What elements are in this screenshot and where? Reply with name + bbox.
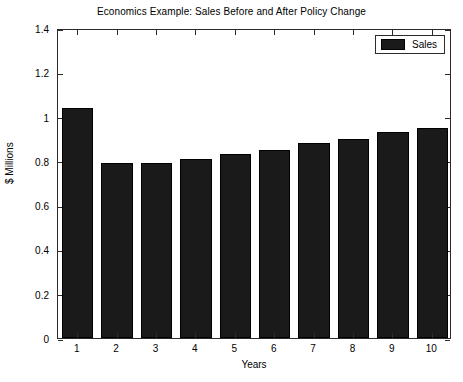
y-tick-mark bbox=[445, 118, 450, 119]
x-tick-mark bbox=[77, 30, 78, 35]
bar-9[interactable] bbox=[377, 132, 409, 338]
y-tick-label: 0 bbox=[43, 334, 49, 345]
x-tick-label: 5 bbox=[232, 343, 238, 354]
x-tick-label: 8 bbox=[350, 343, 356, 354]
x-tick-mark bbox=[117, 30, 118, 35]
bar-8[interactable] bbox=[338, 139, 370, 338]
x-tick-mark bbox=[156, 333, 157, 338]
bar-1[interactable] bbox=[62, 108, 94, 338]
y-tick-label: 0.4 bbox=[35, 245, 49, 256]
x-tick-mark bbox=[432, 333, 433, 338]
x-tick-mark bbox=[77, 333, 78, 338]
x-tick-label: 10 bbox=[426, 343, 437, 354]
x-tick-label: 2 bbox=[113, 343, 119, 354]
x-tick-mark bbox=[274, 333, 275, 338]
chart-figure: Economics Example: Sales Before and Afte… bbox=[0, 0, 463, 382]
x-tick-mark bbox=[314, 30, 315, 35]
chart-legend[interactable]: Sales bbox=[375, 35, 445, 54]
plot-area: Sales bbox=[57, 29, 451, 339]
legend-label-sales: Sales bbox=[412, 39, 437, 50]
chart-title: Economics Example: Sales Before and Afte… bbox=[0, 6, 463, 17]
y-tick-label: 1 bbox=[43, 112, 49, 123]
x-tick-label: 6 bbox=[271, 343, 277, 354]
y-tick-label: 0.2 bbox=[35, 289, 49, 300]
y-tick-mark bbox=[445, 30, 450, 31]
x-tick-mark bbox=[195, 333, 196, 338]
x-tick-mark bbox=[353, 30, 354, 35]
y-axis-tick-labels: 00.20.40.60.811.21.4 bbox=[0, 29, 52, 339]
bar-4[interactable] bbox=[180, 159, 212, 338]
bar-5[interactable] bbox=[220, 154, 252, 338]
y-tick-mark bbox=[58, 30, 63, 31]
y-tick-label: 0.6 bbox=[35, 201, 49, 212]
y-axis-title: $ Millions bbox=[4, 142, 15, 184]
x-tick-mark bbox=[235, 30, 236, 35]
y-tick-label: 0.8 bbox=[35, 156, 49, 167]
y-tick-label: 1.2 bbox=[35, 68, 49, 79]
x-tick-label: 3 bbox=[153, 343, 159, 354]
bar-10[interactable] bbox=[417, 128, 449, 338]
y-tick-label: 1.4 bbox=[35, 24, 49, 35]
x-tick-mark bbox=[353, 333, 354, 338]
y-tick-mark bbox=[58, 74, 63, 75]
x-tick-mark bbox=[117, 333, 118, 338]
bar-6[interactable] bbox=[259, 150, 291, 338]
x-tick-mark bbox=[274, 30, 275, 35]
x-axis-tick-labels: 12345678910 bbox=[57, 341, 451, 359]
x-tick-mark bbox=[156, 30, 157, 35]
x-tick-mark bbox=[314, 333, 315, 338]
plot-inner bbox=[58, 30, 450, 338]
x-tick-mark bbox=[235, 333, 236, 338]
x-tick-mark bbox=[195, 30, 196, 35]
legend-swatch-sales bbox=[381, 39, 405, 50]
y-tick-mark bbox=[445, 74, 450, 75]
x-tick-label: 7 bbox=[310, 343, 316, 354]
x-tick-mark bbox=[392, 333, 393, 338]
bar-3[interactable] bbox=[141, 163, 173, 338]
x-tick-label: 9 bbox=[389, 343, 395, 354]
x-tick-label: 4 bbox=[192, 343, 198, 354]
x-axis-title: Years bbox=[57, 359, 451, 370]
x-tick-label: 1 bbox=[74, 343, 80, 354]
bar-2[interactable] bbox=[101, 163, 133, 338]
bar-7[interactable] bbox=[298, 143, 330, 338]
